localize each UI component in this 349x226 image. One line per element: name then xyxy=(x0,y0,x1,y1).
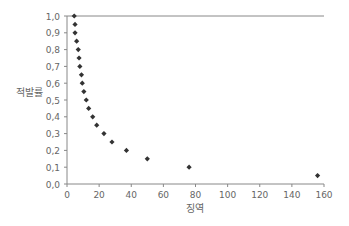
diamond-marker-icon xyxy=(315,173,320,178)
diamond-marker-icon xyxy=(72,22,77,27)
scatter-chart: 0,00,10,20,30,40,50,60,70,80,91,0 020406… xyxy=(0,0,349,226)
x-tick-label: 160 xyxy=(315,190,332,200)
x-tick-label: 60 xyxy=(158,190,170,200)
x-axis-label: 징역 xyxy=(186,203,204,214)
y-tick-label: 0,5 xyxy=(46,96,60,106)
diamond-marker-icon xyxy=(186,165,191,170)
diamond-marker-icon xyxy=(94,123,99,128)
diamond-marker-icon xyxy=(81,89,86,94)
data-points xyxy=(72,13,321,178)
diamond-marker-icon xyxy=(72,30,77,35)
diamond-marker-icon xyxy=(101,131,106,136)
y-tick-label: 0,2 xyxy=(46,146,60,156)
y-tick-label: 0,9 xyxy=(46,28,61,38)
diamond-marker-icon xyxy=(84,97,89,102)
diamond-marker-icon xyxy=(109,139,114,144)
diamond-marker-icon xyxy=(77,64,82,69)
x-tick-label: 140 xyxy=(283,190,300,200)
diamond-marker-icon xyxy=(80,81,85,86)
y-tick-label: 0,4 xyxy=(46,112,61,122)
x-tick-label: 20 xyxy=(93,190,105,200)
y-tick-label: 0,1 xyxy=(46,163,60,173)
y-tick-label: 0,3 xyxy=(46,129,60,139)
diamond-marker-icon xyxy=(90,114,95,119)
y-axis-ticks: 0,00,10,20,30,40,50,60,70,80,91,0 xyxy=(46,12,67,190)
y-tick-label: 1,0 xyxy=(46,12,61,22)
y-tick-label: 0,0 xyxy=(46,180,61,190)
y-axis-label: 적발률 xyxy=(16,87,43,98)
x-tick-label: 80 xyxy=(190,190,202,200)
chart-canvas: 0,00,10,20,30,40,50,60,70,80,91,0 020406… xyxy=(0,0,349,226)
y-tick-label: 0,8 xyxy=(46,45,61,55)
x-tick-label: 40 xyxy=(126,190,138,200)
diamond-marker-icon xyxy=(124,148,129,153)
diamond-marker-icon xyxy=(74,39,79,44)
diamond-marker-icon xyxy=(86,106,91,111)
diamond-marker-icon xyxy=(76,55,81,60)
diamond-marker-icon xyxy=(76,47,81,52)
x-tick-label: 0 xyxy=(64,190,70,200)
y-tick-label: 0,7 xyxy=(46,62,60,72)
x-tick-label: 120 xyxy=(251,190,268,200)
x-axis-ticks: 020406080100120140160 xyxy=(64,184,333,200)
diamond-marker-icon xyxy=(145,156,150,161)
x-tick-label: 100 xyxy=(219,190,236,200)
axes xyxy=(67,16,324,184)
diamond-marker-icon xyxy=(72,13,77,18)
diamond-marker-icon xyxy=(79,72,84,77)
y-tick-label: 0,6 xyxy=(46,79,61,89)
